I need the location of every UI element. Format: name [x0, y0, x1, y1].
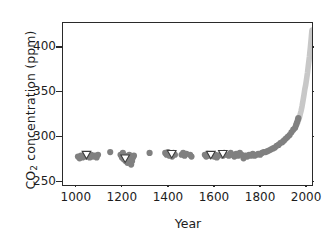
- x-tick-label: 1800: [235, 190, 285, 204]
- plot-area: [62, 22, 313, 186]
- data-point-circle: [107, 149, 113, 155]
- y-axis-label-subscript: 2: [29, 165, 39, 171]
- data-point-circle: [146, 150, 152, 156]
- direct-measurement-line: [297, 30, 312, 123]
- x-axis-label: Year: [62, 216, 314, 231]
- x-tick-label: 1000: [51, 190, 101, 204]
- x-tick-label: 2000: [281, 190, 326, 204]
- y-tick-label: 300: [14, 129, 56, 143]
- series-ice-core-circles: [75, 115, 302, 168]
- x-tick-label: 1600: [189, 190, 239, 204]
- data-point-circle: [188, 153, 194, 159]
- y-tick-label: 400: [14, 39, 56, 53]
- data-canvas: [63, 23, 313, 186]
- series-direct-measurements: [297, 30, 312, 123]
- data-point-circle: [95, 152, 101, 158]
- co2-concentration-chart: CO2 concentration (ppm) Year 25030035040…: [0, 0, 326, 239]
- data-point-circle: [295, 115, 301, 121]
- x-tick-label: 1200: [97, 190, 147, 204]
- y-tick-label: 250: [14, 174, 56, 188]
- y-tick-label: 350: [14, 84, 56, 98]
- x-tick-label: 1400: [143, 190, 193, 204]
- data-point-circle: [131, 153, 137, 159]
